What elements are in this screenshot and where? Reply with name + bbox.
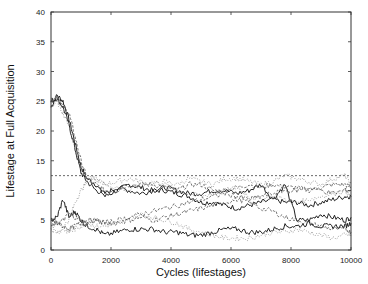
x-axis-label: Cycles (lifestages) bbox=[156, 266, 246, 278]
y-axis-label: Lifestage at Full Acquisition bbox=[4, 64, 16, 197]
x-tick-label: 10000 bbox=[340, 256, 363, 265]
series-line bbox=[51, 96, 351, 193]
series-line bbox=[51, 95, 351, 211]
x-tick-label: 2000 bbox=[102, 256, 120, 265]
x-tick-label: 6000 bbox=[222, 256, 240, 265]
y-tick-label: 20 bbox=[36, 127, 45, 136]
x-tick-label: 4000 bbox=[162, 256, 180, 265]
y-tick-label: 40 bbox=[36, 8, 45, 17]
y-tick-label: 30 bbox=[36, 68, 45, 77]
y-axis: 0510152025303540 bbox=[36, 8, 351, 255]
y-tick-label: 10 bbox=[36, 187, 45, 196]
y-tick-label: 15 bbox=[36, 157, 45, 166]
y-tick-label: 35 bbox=[36, 38, 45, 47]
y-tick-label: 5 bbox=[41, 216, 46, 225]
y-tick-label: 25 bbox=[36, 97, 45, 106]
x-tick-label: 8000 bbox=[282, 256, 300, 265]
plot-frame bbox=[51, 12, 351, 250]
series-line bbox=[51, 200, 351, 237]
y-tick-label: 0 bbox=[41, 246, 46, 255]
line-chart: 0200040006000800010000 0510152025303540 … bbox=[0, 0, 368, 284]
x-tick-label: 0 bbox=[49, 256, 54, 265]
series-layer bbox=[51, 95, 351, 241]
series-line bbox=[51, 100, 351, 188]
